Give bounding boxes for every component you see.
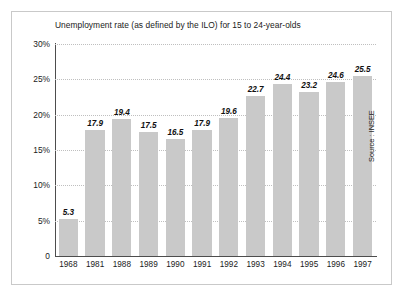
bar-value-label: 23.2 bbox=[301, 81, 317, 90]
bar bbox=[299, 92, 318, 256]
bar bbox=[166, 139, 185, 256]
bar-group: 5.31968 bbox=[55, 44, 82, 256]
bar-value-label: 16.5 bbox=[167, 128, 183, 137]
x-axis-tick-label: 1992 bbox=[220, 260, 238, 269]
bar-value-label: 25.5 bbox=[355, 65, 371, 74]
x-axis-tick-label: 1997 bbox=[354, 260, 372, 269]
x-axis-tick-label: 1994 bbox=[273, 260, 291, 269]
plot-area: 05%10%15%20%25%30%5.3196817.9198119.4198… bbox=[55, 44, 376, 256]
x-axis-tick-label: 1989 bbox=[140, 260, 158, 269]
y-axis-tick-label: 20% bbox=[33, 110, 55, 120]
bar-group: 19.61992 bbox=[216, 44, 243, 256]
source-note: Source : INSEE bbox=[367, 110, 376, 162]
bar-value-label: 17.9 bbox=[87, 119, 103, 128]
y-axis-tick-label: 10% bbox=[33, 180, 55, 190]
bar-group: 17.91991 bbox=[189, 44, 216, 256]
bar bbox=[192, 130, 211, 256]
bar-group: 16.51990 bbox=[162, 44, 189, 256]
bar-group: 24.41994 bbox=[269, 44, 296, 256]
y-axis-tick-label: 0 bbox=[45, 251, 55, 261]
x-axis-tick-label: 1968 bbox=[59, 260, 77, 269]
bar-value-label: 5.3 bbox=[63, 208, 74, 217]
bar-value-label: 17.5 bbox=[141, 121, 157, 130]
bar bbox=[246, 96, 265, 256]
y-axis-tick-label: 15% bbox=[33, 145, 55, 155]
x-axis-tick-label: 1995 bbox=[300, 260, 318, 269]
bar bbox=[59, 219, 78, 256]
bar bbox=[219, 118, 238, 257]
bar-group: 17.91981 bbox=[82, 44, 109, 256]
x-axis-tick-label: 1991 bbox=[193, 260, 211, 269]
chart-figure: Unemployment rate (as defined by the ILO… bbox=[11, 11, 392, 285]
x-axis-line bbox=[55, 256, 377, 257]
y-axis-tick-label: 5% bbox=[38, 216, 55, 226]
bar bbox=[85, 130, 104, 256]
bar-group: 24.61996 bbox=[323, 44, 350, 256]
bar bbox=[326, 82, 345, 256]
y-axis-tick-label: 25% bbox=[33, 74, 55, 84]
bar-value-label: 24.4 bbox=[274, 73, 290, 82]
x-axis-tick-label: 1993 bbox=[247, 260, 265, 269]
bar-group: 22.71993 bbox=[242, 44, 269, 256]
bar-value-label: 17.9 bbox=[194, 119, 210, 128]
x-axis-tick-label: 1988 bbox=[113, 260, 131, 269]
bar bbox=[353, 76, 372, 256]
x-axis-tick-label: 1981 bbox=[86, 260, 104, 269]
y-axis-tick-label: 30% bbox=[33, 39, 55, 49]
bar-group: 19.41988 bbox=[109, 44, 136, 256]
x-axis-tick-label: 1996 bbox=[327, 260, 345, 269]
bar-value-label: 19.6 bbox=[221, 107, 237, 116]
chart-title: Unemployment rate (as defined by the ILO… bbox=[55, 20, 301, 30]
bar-value-label: 24.6 bbox=[328, 71, 344, 80]
bar bbox=[112, 119, 131, 256]
x-axis-tick-label: 1990 bbox=[166, 260, 184, 269]
bar bbox=[139, 132, 158, 256]
bar-value-label: 19.4 bbox=[114, 108, 130, 117]
bar-group: 23.21995 bbox=[296, 44, 323, 256]
bar-value-label: 22.7 bbox=[248, 85, 264, 94]
bar-group: 17.51989 bbox=[135, 44, 162, 256]
bar bbox=[273, 84, 292, 256]
